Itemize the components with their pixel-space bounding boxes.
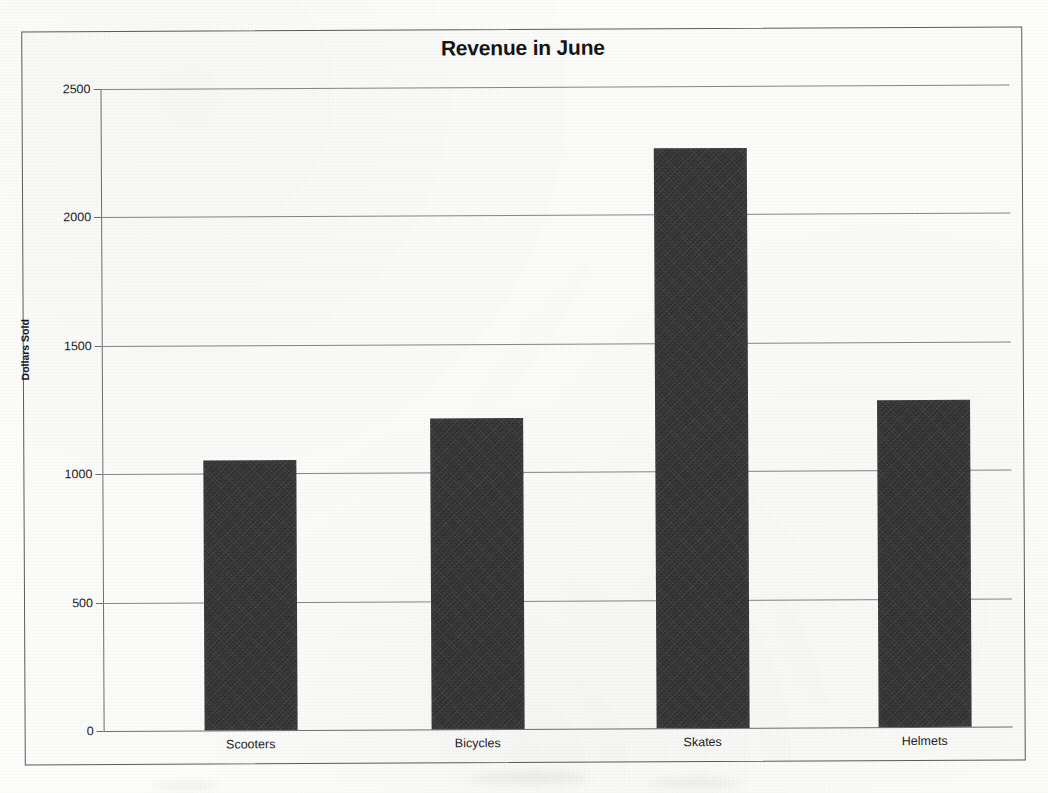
y-tick-mark [95,474,102,475]
y-tick-mark [93,89,100,90]
y-tick-label: 1500 [46,339,92,353]
y-tick-mark [97,731,104,732]
x-tick-label-bicycles: Bicycles [455,736,501,750]
y-tick-label: 500 [47,596,93,610]
chart-frame: Revenue in June Dollars Sold 0 500 1000 … [21,27,1026,766]
gridline-2000 [101,213,1010,218]
y-tick-label: 0 [48,724,94,738]
bar-helmets [877,400,972,727]
plot-area [100,85,1012,731]
y-axis-tick-labels: 0 500 1000 1500 2000 2500 [38,89,93,731]
y-axis-line [100,89,104,731]
x-tick-label-helmets: Helmets [902,734,948,748]
y-tick-label: 2000 [45,211,91,225]
y-tick-mark [94,217,101,218]
y-tick-mark [96,603,103,604]
chart-title: Revenue in June [22,34,1023,63]
x-tick-label-skates: Skates [684,735,722,749]
y-axis-title: Dollars Sold [19,319,31,380]
bar-scooters [203,460,297,730]
x-tick-label-scooters: Scooters [226,737,275,751]
y-tick-mark [95,346,102,347]
y-tick-label: 2500 [44,82,90,96]
bar-skates [654,148,750,728]
x-axis-tick-labels: Scooters Bicycles Skates Helmets [104,734,1013,766]
gridline-1500 [102,341,1011,346]
y-tick-label: 1000 [46,467,92,481]
gridline-2500 [100,85,1009,90]
bar-bicycles [430,418,525,729]
